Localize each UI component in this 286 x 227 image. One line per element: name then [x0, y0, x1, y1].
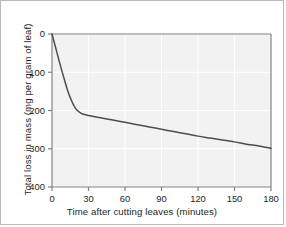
- y-axis-title: Total loss in mass (mg per gram of leaf): [22, 22, 33, 198]
- x-tick-label: 60: [120, 193, 130, 204]
- x-tick-label: 180: [263, 193, 279, 204]
- line-chart: 0306090120150180 0100200300400: [1, 1, 285, 226]
- x-tick-label: 150: [227, 193, 243, 204]
- y-tick-group: 0100200300400: [29, 28, 52, 192]
- x-tick-label: 30: [83, 193, 93, 204]
- y-tick-label: 0: [40, 28, 45, 39]
- x-tick-label: 120: [190, 193, 206, 204]
- x-tick-label: 90: [156, 193, 166, 204]
- x-tick-group: 0306090120150180: [49, 187, 278, 204]
- x-axis-title: Time after cutting leaves (minutes): [1, 206, 283, 217]
- chart-figure: 0306090120150180 0100200300400 Time afte…: [0, 0, 284, 225]
- x-tick-label: 0: [49, 193, 54, 204]
